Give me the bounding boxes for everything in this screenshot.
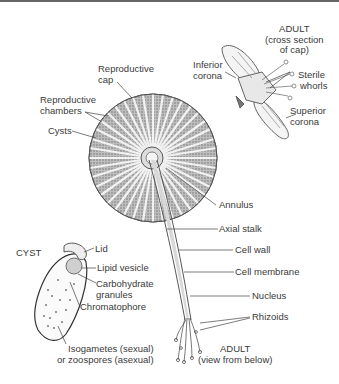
cyst-title: CYST bbox=[16, 248, 41, 259]
label-cell-wall: Cell wall bbox=[235, 245, 270, 256]
label-line: Reproductive bbox=[98, 64, 154, 75]
label-rhizoids: Rhizoids bbox=[252, 312, 288, 323]
label-line: Sterile bbox=[298, 70, 327, 81]
label-nucleus: Nucleus bbox=[252, 291, 286, 302]
title-line-1: ADULT bbox=[265, 24, 324, 35]
label-annulus: Annulus bbox=[219, 200, 253, 211]
label-superior-corona: Superior corona bbox=[290, 106, 326, 127]
label-reproductive-cap: Reproductive cap bbox=[98, 64, 154, 85]
diagram-artwork bbox=[0, 0, 339, 384]
label-line: Reproductive bbox=[40, 95, 96, 106]
label-cell-membrane: Cell membrane bbox=[235, 267, 299, 278]
label-line: corona bbox=[290, 117, 326, 128]
reproductive-cap-illustration bbox=[89, 94, 217, 222]
label-cysts: Cysts bbox=[48, 126, 72, 137]
label-isogametes: Isogametes (sexual) or zoospores (asexua… bbox=[57, 344, 154, 365]
label-reproductive-chambers: Reproductive chambers bbox=[40, 95, 96, 116]
label-inferior-corona: Inferior corona bbox=[193, 60, 223, 81]
label-line: Isogametes (sexual) bbox=[57, 344, 154, 355]
label-sterile-whorls: Sterile whorls bbox=[298, 70, 327, 91]
label-lipid-vesicle: Lipid vesicle bbox=[97, 263, 149, 274]
cyst-illustration bbox=[35, 243, 87, 340]
title-line-3: of cap) bbox=[265, 45, 324, 56]
cap-cross-section-illustration bbox=[222, 45, 296, 138]
adult-below-title: ADULT (view from below) bbox=[198, 344, 272, 365]
label-lid: Lid bbox=[95, 244, 108, 255]
label-line: corona bbox=[193, 71, 223, 82]
label-line: cap bbox=[98, 75, 154, 86]
label-carbohydrate-granules: Carbohydrate granules bbox=[96, 279, 154, 300]
label-axial-stalk: Axial stalk bbox=[219, 224, 262, 235]
adult-cross-section-title: ADULT (cross section of cap) bbox=[265, 24, 324, 56]
label-line: Superior bbox=[290, 106, 326, 117]
label-line: or zoospores (asexual) bbox=[57, 355, 154, 366]
label-line: granules bbox=[96, 290, 154, 301]
title-line-2: (view from below) bbox=[198, 355, 272, 366]
label-line: chambers bbox=[40, 106, 96, 117]
label-chromatophore: Chromatophore bbox=[80, 302, 146, 313]
label-line: Carbohydrate bbox=[96, 279, 154, 290]
title-line-1: ADULT bbox=[198, 344, 272, 355]
label-line: whorls bbox=[298, 81, 327, 92]
label-line: Inferior bbox=[193, 60, 223, 71]
